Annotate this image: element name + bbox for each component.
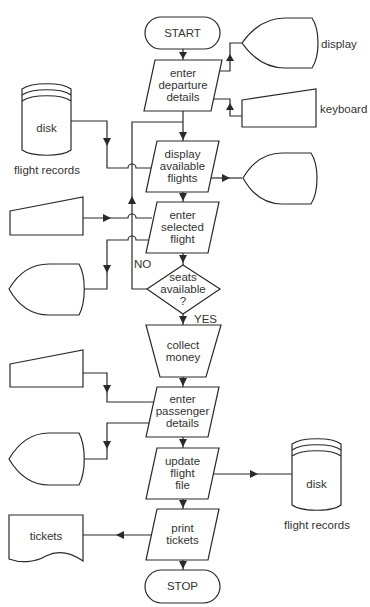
arrow-down-icon — [179, 378, 187, 386]
seats-decision-label: seats available ? — [145, 271, 221, 307]
stop-label: STOP — [145, 580, 220, 592]
arrow-right-icon — [103, 214, 111, 222]
collect-money-label: collect money — [145, 339, 221, 363]
disk-top-label: disk — [22, 122, 71, 134]
arrow-right-icon — [250, 470, 258, 478]
enter-departure-label: enter departure details — [145, 67, 221, 103]
disk-bottom-label: disk — [292, 478, 341, 490]
arrow-down-icon — [179, 193, 187, 201]
no-label: NO — [134, 258, 151, 270]
edge-keyboard-to-selected — [83, 214, 152, 218]
arrow-down-icon — [103, 138, 111, 146]
update-file-label: update flight file — [145, 455, 220, 491]
arrow-down-icon — [103, 265, 111, 273]
display-flights-label: display available flights — [145, 148, 220, 184]
arrow-left-icon — [116, 531, 124, 539]
arrow-down-icon — [179, 132, 187, 140]
arrow-down-icon — [179, 316, 187, 324]
keyboard-left2-device[interactable] — [10, 350, 83, 387]
yes-label: YES — [194, 313, 217, 325]
enter-selected-label: enter selected flight — [145, 209, 220, 245]
keyboard-mid-device[interactable] — [10, 197, 83, 235]
arrow-up-icon — [128, 196, 136, 204]
arrow-up-icon — [226, 54, 234, 61]
display-top-label: display — [321, 38, 357, 50]
arrow-down-icon — [179, 255, 187, 263]
enter-passenger-label: enter passenger details — [145, 393, 220, 429]
disk-top-caption: flight records — [6, 164, 88, 176]
display-left-device[interactable] — [9, 264, 84, 315]
arrow-down-icon — [179, 52, 187, 59]
disk-bottom-caption: flight records — [276, 519, 358, 531]
arrow-down-icon — [179, 561, 187, 569]
process-nodes — [144, 17, 222, 603]
arrow-down-icon — [103, 441, 111, 449]
tickets-label: tickets — [9, 530, 83, 542]
start-label: START — [145, 27, 220, 39]
keyboard-top-label: keyboard — [320, 103, 367, 115]
keyboard-top-device[interactable] — [242, 89, 316, 127]
edge-passenger-to-display-left2 — [83, 423, 151, 459]
display-top-device[interactable] — [242, 18, 318, 68]
arrow-down-icon — [179, 439, 187, 447]
disk-bottom-device[interactable] — [292, 439, 341, 511]
print-tickets-label: print tickets — [145, 522, 220, 546]
edge-disk-to-display-flights — [71, 121, 154, 168]
arrow-down-icon — [103, 385, 111, 393]
display-mid-device[interactable] — [243, 153, 317, 204]
arrow-up-icon — [226, 103, 234, 110]
display-left2-device[interactable] — [9, 433, 84, 485]
arrow-down-icon — [179, 500, 187, 508]
arrow-right-icon — [222, 174, 230, 182]
disk-top-device[interactable] — [22, 84, 71, 156]
